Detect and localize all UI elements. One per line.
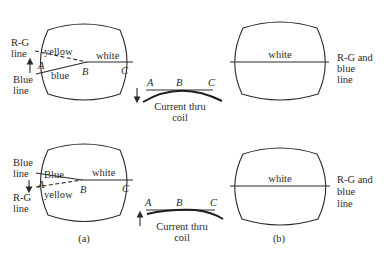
blue-line-label-line1: Blue: [13, 157, 33, 168]
coil-caption-line2: coil: [174, 232, 190, 243]
yellow-label: yellow: [44, 46, 73, 57]
rg-and-blue-label-line3: line: [337, 198, 353, 209]
white-label: white: [268, 49, 292, 60]
coil-caption-line1: Current thru: [156, 221, 208, 232]
point-c-label: C: [121, 65, 129, 76]
top-right-screen: white R-G and blue line: [230, 22, 374, 100]
blue-line-label-line2: line: [13, 85, 29, 96]
bottom-coil: A B C Current thru coil: [138, 197, 224, 243]
blue-label: Blue: [44, 169, 64, 180]
coil-point-a: A: [144, 197, 152, 208]
arrow-down-icon: [135, 88, 140, 102]
bottom-left-side-labels: Blue line R-G line: [13, 157, 33, 214]
crt-screen-outline: [235, 22, 326, 100]
arrow-up-icon: [28, 59, 33, 73]
rg-and-blue-label-line1: R-G and: [337, 174, 374, 185]
point-a-label: A: [37, 179, 45, 190]
point-b-label: B: [82, 66, 89, 77]
yellow-label: yellow: [44, 189, 73, 200]
white-label: white: [96, 50, 120, 61]
diagram-canvas: yellow blue white A B C R-G line Blue li…: [0, 0, 388, 259]
coil-point-c: C: [208, 77, 216, 88]
coil-caption-line2: coil: [172, 112, 188, 123]
rg-line-label-line1: R-G: [11, 37, 30, 48]
convergence-diagram: yellow blue white A B C R-G line Blue li…: [0, 0, 388, 259]
bottom-left-screen: Blue yellow white A B C: [36, 144, 133, 222]
coil-point-c: C: [210, 197, 218, 208]
point-b-label: B: [80, 184, 87, 195]
rg-and-blue-label-line2: blue: [337, 63, 355, 74]
coil-point-a: A: [146, 77, 154, 88]
rg-line-label-line2: line: [11, 48, 27, 59]
panel-b-caption: (b): [273, 233, 286, 245]
top-left-side-labels: R-G line Blue line: [11, 37, 33, 96]
rg-line-label-line1: R-G: [13, 192, 32, 203]
crt-screen-outline: [41, 144, 128, 222]
rg-and-blue-label-line3: line: [337, 74, 353, 85]
blue-line-label-line2: line: [13, 168, 29, 179]
top-coil: A B C Current thru coil: [135, 77, 223, 123]
coil-point-b: B: [176, 197, 183, 208]
arrow-down-icon: [27, 180, 32, 192]
panel-a-caption: (a): [78, 233, 90, 245]
point-c-label: C: [122, 183, 130, 194]
rg-and-blue-label-line1: R-G and: [337, 52, 374, 63]
blue-line-label-line1: Blue: [13, 74, 33, 85]
top-left-screen: yellow blue white A B C: [35, 24, 133, 100]
white-label: white: [268, 173, 292, 184]
coil-point-b: B: [176, 77, 183, 88]
rg-and-blue-label-line2: blue: [337, 186, 355, 197]
point-a-label: A: [37, 60, 45, 71]
white-label: white: [92, 167, 116, 178]
bottom-right-screen: white R-G and blue line: [230, 148, 374, 225]
blue-label: blue: [51, 70, 69, 81]
coil-caption-line1: Current thru: [154, 101, 206, 112]
arrow-up-icon: [138, 212, 143, 226]
current-waveform: [147, 210, 223, 219]
rg-line-label-line2: line: [13, 203, 29, 214]
